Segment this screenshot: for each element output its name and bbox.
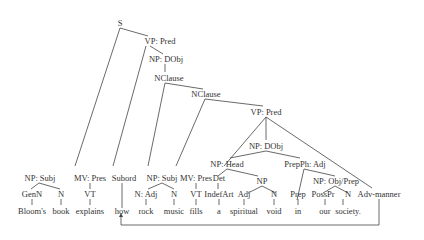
node-np-subj-1: NP: Subj — [25, 173, 56, 183]
word: music — [164, 206, 185, 216]
word: how — [115, 206, 131, 216]
node-vp-pred-2: VP: Pred — [251, 107, 283, 117]
pos-label: N — [345, 189, 351, 199]
pos-label: Adv-manner — [358, 189, 401, 199]
node-mv-pres-2: MV: Pres — [180, 173, 212, 183]
pos-label: N: Adj — [135, 189, 158, 199]
pos-label: IndefArt — [204, 189, 234, 199]
node-prepph-adj: PrepPh: Adj — [284, 159, 325, 169]
node-np-head: NP: Head — [210, 159, 244, 169]
word: spiritual — [230, 206, 258, 216]
node-nclause-1: NClause — [154, 73, 184, 83]
word-row: Bloom's book explains how rock music fil… — [18, 206, 361, 216]
node-np-dobj-2: NP: DObj — [249, 141, 283, 151]
word: fills — [189, 206, 202, 216]
word: in — [295, 206, 302, 216]
node-np-dobj-1: NP: DObj — [149, 54, 183, 64]
syntax-tree-diagram: S VP: Pred NP: DObj NClause NClause VP: … — [0, 0, 424, 240]
node-subord: Subord — [112, 173, 137, 183]
node-np: NP — [257, 176, 268, 186]
pos-label: VT — [84, 189, 96, 199]
node-vp-pred-1: VP: Pred — [145, 36, 177, 46]
node-mv-pres-1: MV: Pres — [74, 173, 106, 183]
word: a — [217, 206, 221, 216]
node-det: Det — [213, 173, 226, 183]
pos-label: N — [271, 189, 277, 199]
word: rock — [138, 206, 154, 216]
word: our — [319, 206, 331, 216]
word: society. — [335, 206, 361, 216]
pos-label: Prep — [290, 189, 306, 199]
pos-label: N — [58, 189, 64, 199]
node-s: S — [118, 18, 123, 28]
pos-label: Adj — [238, 189, 251, 199]
word: Bloom's — [18, 206, 46, 216]
word: explains — [76, 206, 104, 216]
word: void — [266, 206, 282, 216]
pos-label: PossPr — [311, 189, 334, 199]
pos-label: VT — [190, 189, 202, 199]
pos-label: GenN — [22, 189, 42, 199]
node-nclause-2: NClause — [191, 89, 221, 99]
node-np-subj-2: NP: Subj — [147, 173, 178, 183]
tree-nodes: S VP: Pred NP: DObj NClause NClause VP: … — [25, 18, 360, 186]
node-np-objprep: NP: Obj/Prep — [313, 176, 359, 186]
pos-label: N — [171, 189, 177, 199]
word: book — [53, 206, 71, 216]
